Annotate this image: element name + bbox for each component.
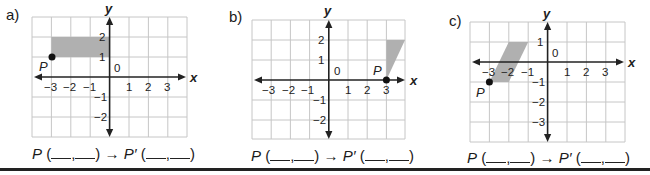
svg-text:−2: −2: [282, 84, 295, 96]
x-axis-label-a: x: [189, 70, 198, 85]
blank-input[interactable]: [389, 148, 409, 161]
expression-c: P (,) → P′ (,): [467, 149, 630, 166]
panel-c-label: c): [449, 12, 462, 29]
svg-text:−2: −2: [313, 114, 326, 126]
divider-rule: [0, 168, 650, 171]
blank-input[interactable]: [270, 148, 290, 161]
svg-text:−3: −3: [532, 116, 545, 128]
svg-text:1: 1: [345, 84, 351, 96]
blank-input[interactable]: [294, 148, 314, 161]
svg-text:2: 2: [318, 34, 324, 46]
svg-text:1: 1: [99, 51, 105, 63]
expression-b: P (,) → P′ (,): [251, 147, 414, 164]
expression-a: P (,) → P′ (,): [32, 145, 195, 162]
svg-text:−3: −3: [262, 84, 275, 96]
svg-text:−2: −2: [501, 66, 514, 78]
svg-text:2: 2: [145, 81, 151, 93]
svg-text:−1: −1: [532, 76, 545, 88]
svg-text:3: 3: [602, 66, 608, 78]
svg-text:x: x: [627, 55, 636, 70]
point-p-a: [49, 54, 56, 61]
svg-text:1: 1: [126, 81, 132, 93]
point-p-c: [486, 79, 493, 86]
svg-text:3: 3: [164, 81, 170, 93]
panel-b-label: b): [229, 8, 242, 25]
point-p-b: [383, 77, 390, 84]
blank-input[interactable]: [75, 146, 95, 159]
svg-text:P: P: [373, 63, 382, 78]
svg-text:−1: −1: [94, 91, 107, 103]
svg-text:−2: −2: [532, 96, 545, 108]
blank-input[interactable]: [365, 148, 385, 161]
arrow-icon: →: [324, 147, 339, 164]
svg-text:−3: −3: [482, 66, 495, 78]
svg-text:3: 3: [383, 84, 389, 96]
svg-text:1: 1: [318, 54, 324, 66]
blank-input[interactable]: [510, 150, 530, 163]
svg-text:1: 1: [564, 66, 570, 78]
blank-input[interactable]: [51, 146, 71, 159]
svg-text:−1: −1: [313, 94, 326, 106]
svg-text:P: P: [476, 85, 485, 100]
svg-text:0: 0: [114, 62, 120, 74]
blank-input[interactable]: [605, 150, 625, 163]
svg-text:2: 2: [364, 84, 370, 96]
y-axis-label-a: y: [104, 1, 113, 16]
svg-text:y: y: [323, 3, 332, 18]
svg-text:y: y: [542, 6, 551, 21]
svg-text:−2: −2: [63, 81, 76, 93]
svg-text:−3: −3: [44, 81, 57, 93]
blank-input[interactable]: [146, 146, 166, 159]
svg-text:−2: −2: [94, 111, 107, 123]
arrow-icon: →: [105, 145, 120, 162]
svg-text:2: 2: [583, 66, 589, 78]
blank-input[interactable]: [486, 150, 506, 163]
svg-text:P: P: [39, 59, 48, 74]
svg-text:0: 0: [334, 65, 340, 77]
blank-input[interactable]: [581, 150, 601, 163]
svg-text:x: x: [409, 73, 418, 88]
arrow-icon: →: [540, 149, 555, 166]
svg-text:2: 2: [99, 31, 105, 43]
blank-input[interactable]: [170, 146, 190, 159]
svg-text:0: 0: [552, 47, 558, 59]
svg-text:1: 1: [537, 36, 543, 48]
